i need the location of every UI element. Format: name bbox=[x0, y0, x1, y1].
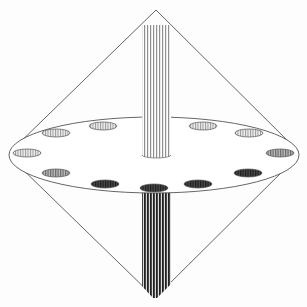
hole-4 bbox=[235, 129, 263, 137]
bicone-diagram: Double cone (bicone) with a central hori… bbox=[0, 0, 307, 307]
hole-11 bbox=[184, 180, 212, 188]
hole-3 bbox=[42, 129, 70, 137]
bicone-figure bbox=[0, 0, 307, 307]
hole-5 bbox=[13, 149, 41, 157]
hole-1 bbox=[89, 122, 117, 130]
upper-column bbox=[142, 25, 171, 158]
hole-2 bbox=[189, 122, 217, 130]
hole-9 bbox=[91, 180, 119, 188]
hole-6 bbox=[266, 149, 294, 157]
hole-7 bbox=[42, 169, 70, 177]
hole-8 bbox=[234, 169, 262, 177]
lower-column bbox=[142, 190, 171, 298]
hole-10 bbox=[140, 184, 168, 192]
